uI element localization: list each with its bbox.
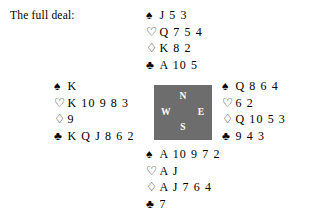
spade-icon: ♠ (146, 146, 158, 163)
hand-north-clubs-row: ♣ A 10 5 (146, 57, 203, 74)
hand-north-clubs: A 10 5 (158, 57, 198, 74)
hand-east-clubs-row: ♣ 9 4 3 (222, 128, 286, 145)
hand-north-diamonds-row: ♢ K 8 2 (146, 40, 203, 57)
hand-north-spades-row: ♠ J 5 3 (146, 7, 203, 24)
compass-label-south: S (180, 123, 185, 133)
hand-east-spades: Q 8 6 4 (234, 78, 279, 95)
compass-label-north: N (180, 92, 187, 102)
hand-west-diamonds-row: ♢ 9 (54, 111, 135, 128)
hand-east-diamonds-row: ♢ Q 10 5 3 (222, 111, 286, 128)
hand-south-spades-row: ♠ A 10 9 7 2 (146, 146, 221, 163)
diamond-icon: ♢ (222, 111, 234, 128)
hand-north-diamonds: K 8 2 (158, 40, 192, 57)
hand-west-hearts-row: ♡ K 10 9 8 3 (54, 95, 135, 112)
hand-south-hearts: A J (158, 163, 178, 180)
hand-south: ♠ A 10 9 7 2 ♡ A J ♢ A J 7 6 4 ♣ 7 (146, 146, 221, 212)
hand-west-clubs: K Q J 8 6 2 (66, 128, 135, 145)
hand-west-hearts: K 10 9 8 3 (66, 95, 129, 112)
spade-icon: ♠ (222, 78, 234, 95)
hand-west-clubs-row: ♣ K Q J 8 6 2 (54, 128, 135, 145)
compass-label-east: E (198, 108, 204, 118)
hand-east-spades-row: ♠ Q 8 6 4 (222, 78, 286, 95)
deal-caption: The full deal: (10, 9, 75, 21)
heart-icon: ♡ (146, 163, 158, 180)
hand-north-hearts-row: ♡ Q 7 5 4 (146, 24, 203, 41)
spade-icon: ♠ (146, 7, 158, 24)
club-icon: ♣ (222, 128, 234, 145)
heart-icon: ♡ (54, 95, 66, 112)
hand-north-hearts: Q 7 5 4 (158, 24, 203, 41)
hand-south-hearts-row: ♡ A J (146, 163, 221, 180)
spade-icon: ♠ (54, 78, 66, 95)
hand-west-diamonds: 9 (66, 111, 75, 128)
hand-east-diamonds: Q 10 5 3 (234, 111, 286, 128)
hand-west-spades-row: ♠ K (54, 78, 135, 95)
hand-north-spades: J 5 3 (158, 7, 188, 24)
hand-south-spades: A 10 9 7 2 (158, 146, 221, 163)
hand-east: ♠ Q 8 6 4 ♡ 6 2 ♢ Q 10 5 3 ♣ 9 4 3 (222, 78, 286, 144)
hand-north: ♠ J 5 3 ♡ Q 7 5 4 ♢ K 8 2 ♣ A 10 5 (146, 7, 203, 73)
heart-icon: ♡ (146, 24, 158, 41)
hand-west: ♠ K ♡ K 10 9 8 3 ♢ 9 ♣ K Q J 8 6 2 (54, 78, 135, 144)
diamond-icon: ♢ (54, 111, 66, 128)
diamond-icon: ♢ (146, 179, 158, 196)
hand-east-clubs: 9 4 3 (234, 128, 265, 145)
club-icon: ♣ (146, 196, 158, 213)
heart-icon: ♡ (222, 95, 234, 112)
bridge-deal-diagram: The full deal: ♠ J 5 3 ♡ Q 7 5 4 ♢ K 8 2… (0, 0, 327, 223)
club-icon: ♣ (54, 128, 66, 145)
hand-south-clubs-row: ♣ 7 (146, 196, 221, 213)
hand-east-hearts-row: ♡ 6 2 (222, 95, 286, 112)
hand-east-hearts: 6 2 (234, 95, 254, 112)
hand-south-diamonds-row: ♢ A J 7 6 4 (146, 179, 221, 196)
diamond-icon: ♢ (146, 40, 158, 57)
hand-west-spades: K (66, 78, 77, 95)
compass-label-west: W (161, 108, 171, 118)
club-icon: ♣ (146, 57, 158, 74)
hand-south-clubs: 7 (158, 196, 167, 213)
hand-south-diamonds: A J 7 6 4 (158, 179, 212, 196)
compass-box: N W E S (154, 85, 212, 140)
